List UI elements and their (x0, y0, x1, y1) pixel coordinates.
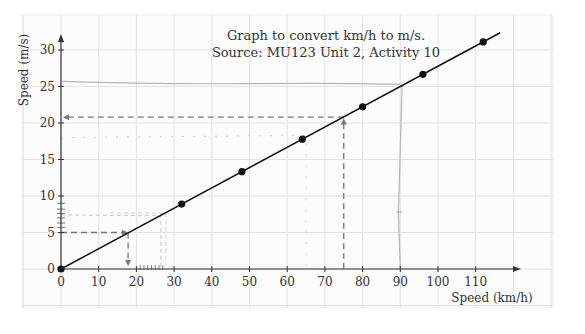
data-point (238, 168, 245, 175)
x-tick-label: 10 (91, 275, 106, 289)
x-tick-label: 60 (280, 275, 295, 289)
x-tick-label: 100 (427, 275, 450, 289)
y-tick-label: 10 (40, 189, 55, 203)
x-tick-label: 40 (204, 275, 219, 289)
y-tick-label: 30 (40, 43, 55, 57)
x-tick-label: 50 (242, 275, 257, 289)
y-tick-label: 20 (40, 116, 55, 130)
x-tick-label: 80 (355, 275, 370, 289)
data-point (419, 71, 426, 78)
x-tick-label: 70 (317, 275, 332, 289)
y-axis-label: Speed (m/s) (17, 34, 31, 107)
y-tick-label: 5 (47, 226, 55, 240)
data-point (480, 38, 487, 45)
data-point (359, 103, 366, 110)
y-tick-label: 0 (47, 262, 55, 276)
y-tick-label: 25 (40, 80, 55, 94)
x-tick-label: 20 (129, 275, 144, 289)
chart-subtitle: Source: MU123 Unit 2, Activity 10 (212, 45, 440, 60)
x-tick-label: 90 (393, 275, 408, 289)
data-point (299, 136, 306, 143)
data-point (178, 201, 185, 208)
x-tick-label: 30 (166, 275, 181, 289)
chart: 0102030405060708090100110051015202530 Gr… (0, 0, 585, 334)
y-tick-label: 15 (40, 153, 55, 167)
chart-svg: 0102030405060708090100110051015202530 Gr… (0, 0, 585, 334)
x-tick-label: 110 (464, 275, 487, 289)
x-tick-label: 0 (57, 275, 65, 289)
data-point (57, 265, 64, 272)
x-axis-label: Speed (km/h) (451, 291, 532, 305)
chart-title: Graph to convert km/h to m/s. (227, 28, 425, 43)
